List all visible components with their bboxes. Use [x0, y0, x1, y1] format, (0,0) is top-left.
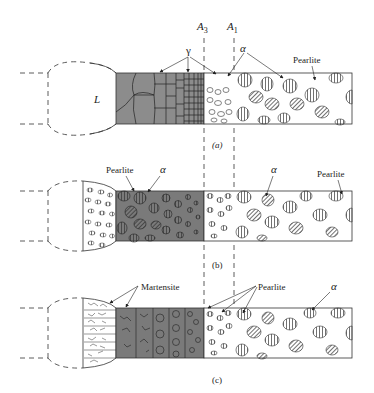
liquid-label: L	[93, 93, 100, 105]
a3-label: A3	[196, 20, 208, 35]
pearlite-label-b-left: Pearlite	[106, 165, 134, 175]
gamma-label: γ	[185, 44, 191, 56]
alpha-label-c: α	[331, 280, 337, 292]
panel-c: Martensite Pearlite α (c)	[20, 280, 352, 385]
pearlite-label-c: Pearlite	[258, 282, 286, 292]
martensite-haz-region	[116, 308, 204, 358]
austenite-region	[116, 73, 204, 124]
caption-c: (c)	[212, 375, 222, 385]
panel-a: L	[20, 42, 352, 150]
panel-b: Pearlite α α Pearlite (b)	[20, 163, 352, 270]
alpha-label-a: α	[240, 42, 246, 54]
martensite-fusion-zone	[83, 298, 116, 368]
alpha-label-b-right: α	[271, 163, 277, 175]
pearlite-label-a: Pearlite	[293, 55, 321, 65]
caption-b: (b)	[212, 260, 223, 270]
weld-microstructure-diagram: A3 A1 L	[0, 0, 374, 393]
critical-temperature-lines: A3 A1	[196, 20, 238, 340]
pearlite-label-b-right: Pearlite	[317, 169, 345, 179]
liquid-pool-outline	[20, 62, 116, 136]
alpha-label-b-left: α	[160, 163, 166, 175]
caption-a: (a)	[212, 140, 223, 150]
a1-label: A1	[226, 20, 238, 35]
martensite-label: Martensite	[141, 282, 180, 292]
